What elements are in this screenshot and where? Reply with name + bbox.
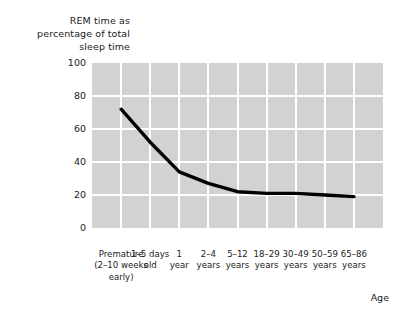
y-axis-tick-labels: 020406080100 [0,63,86,228]
x-tick-label: 65–86 years [331,249,377,272]
data-line-series [92,63,383,228]
y-axis-title: REM time as percentage of total sleep ti… [6,14,130,53]
y-tick-label: 100 [2,58,86,68]
x-axis-tick-labels: Premature (2–10 weeks early)1–5 days old… [92,249,383,295]
y-tick-label: 80 [2,91,86,101]
y-tick-label: 40 [2,157,86,167]
x-axis-title: Age [371,292,389,303]
plot-area [92,63,383,228]
y-tick-label: 20 [2,190,86,200]
y-tick-label: 0 [2,223,86,233]
y-tick-label: 60 [2,124,86,134]
rem-percentage-line [121,109,354,196]
